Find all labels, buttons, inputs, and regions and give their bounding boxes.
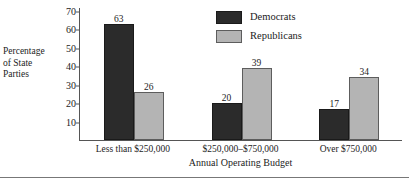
y-axis-tick-mark bbox=[76, 11, 79, 12]
y-axis-tick-label: 20 bbox=[66, 99, 76, 109]
y-axis-tick-mark bbox=[76, 48, 79, 49]
y-axis-tick-label: 10 bbox=[66, 118, 76, 128]
x-axis-tick-labels: Less than $250,000$250,000–$750,000Over … bbox=[79, 143, 402, 157]
bar-democrats-0: 63 bbox=[104, 24, 134, 140]
bar-group: 1734 bbox=[319, 8, 379, 140]
bar-democrats-1: 20 bbox=[212, 103, 242, 140]
bar-value-label: 34 bbox=[359, 67, 369, 77]
y-axis-tick-label: 30 bbox=[66, 81, 76, 91]
y-axis-tick-label: 60 bbox=[66, 25, 76, 35]
x-axis-tick-label: Less than $250,000 bbox=[96, 143, 170, 155]
x-axis-tick-label: $250,000–$750,000 bbox=[203, 143, 279, 155]
y-axis-title-line-1: Percentage bbox=[3, 46, 61, 58]
x-axis-title: Annual Operating Budget bbox=[79, 157, 402, 169]
y-axis-tick-mark bbox=[76, 104, 79, 105]
y-axis-title-line-2: of State bbox=[3, 58, 61, 70]
bar-chart-figure: Percentage of State Parties 102030405060… bbox=[0, 0, 409, 189]
bar-value-label: 63 bbox=[114, 14, 124, 24]
legend: Democrats Republicans bbox=[216, 9, 302, 47]
legend-label-democrats: Democrats bbox=[250, 11, 295, 23]
bottom-divider bbox=[0, 177, 409, 178]
legend-label-republicans: Republicans bbox=[250, 30, 302, 42]
y-axis-tick-label: 40 bbox=[66, 62, 76, 72]
y-axis-tick-mark bbox=[76, 67, 79, 68]
bar-democrats-2: 17 bbox=[319, 109, 349, 140]
y-axis-tick-mark bbox=[76, 30, 79, 31]
legend-swatch-republicans-icon bbox=[216, 30, 242, 43]
bar-value-label: 20 bbox=[222, 93, 232, 103]
y-axis-tick-mark bbox=[76, 122, 79, 123]
y-axis-tick-label: 70 bbox=[66, 7, 76, 17]
bar-value-label: 17 bbox=[329, 99, 339, 109]
x-axis-tick-label: Over $750,000 bbox=[320, 143, 377, 155]
bar-value-label: 39 bbox=[252, 58, 262, 68]
y-axis-tick-mark bbox=[76, 85, 79, 86]
x-axis-line bbox=[79, 140, 402, 141]
legend-swatch-democrats-icon bbox=[216, 11, 242, 24]
bar-republicans-2: 34 bbox=[349, 77, 379, 140]
bar-group: 6326 bbox=[104, 8, 164, 140]
y-axis-tick-label: 50 bbox=[66, 44, 76, 54]
bar-republicans-1: 39 bbox=[242, 68, 272, 140]
bar-republicans-0: 26 bbox=[134, 92, 164, 140]
y-axis-title-line-3: Parties bbox=[3, 69, 61, 81]
bar-value-label: 26 bbox=[144, 82, 154, 92]
legend-item-republicans: Republicans bbox=[216, 28, 302, 44]
y-axis-title: Percentage of State Parties bbox=[3, 46, 61, 81]
legend-item-democrats: Democrats bbox=[216, 9, 302, 25]
